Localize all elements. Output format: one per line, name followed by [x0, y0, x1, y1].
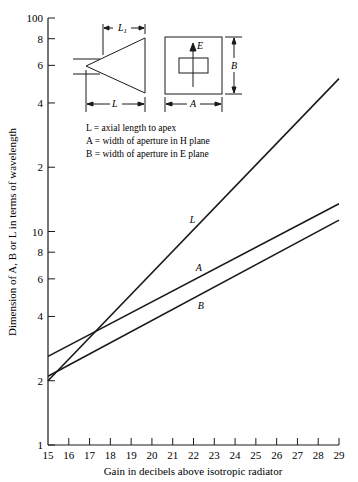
- y-tick-label: 6: [38, 273, 44, 285]
- legend-item-L: L = axial length to apex: [86, 123, 176, 133]
- label-B-dim: B: [231, 60, 237, 71]
- legend-item-A: A = width of aperture in H plane: [86, 136, 210, 146]
- series-label-A: A: [195, 262, 203, 273]
- x-tick-label: 18: [105, 449, 117, 461]
- y-tick-label: 4: [38, 97, 44, 109]
- y-ticks: 12468102468100: [27, 12, 56, 451]
- x-tick-label: 20: [146, 449, 158, 461]
- label-E: E: [196, 40, 203, 51]
- y-tick-label: 6: [38, 59, 44, 71]
- x-tick-label: 21: [167, 449, 178, 461]
- y-tick-label: 8: [38, 246, 44, 258]
- x-tick-label: 16: [63, 449, 75, 461]
- horn-gain-chart: 12468102468100 1516171819202122232425262…: [0, 0, 358, 482]
- series-line-B: [48, 220, 339, 376]
- x-axis-label: Gain in decibels above isotropic radiato…: [104, 465, 283, 477]
- y-axis-label: Dimension of A, B or L in terms of wavel…: [6, 128, 18, 336]
- label-L1: L1: [117, 22, 127, 35]
- series-label-B: B: [198, 300, 204, 311]
- y-tick-label: 2: [38, 161, 44, 173]
- y-tick-label: 2: [38, 375, 44, 387]
- label-L: L: [111, 98, 118, 109]
- x-tick-label: 22: [188, 449, 199, 461]
- x-tick-label: 27: [292, 449, 304, 461]
- x-tick-label: 26: [271, 449, 283, 461]
- x-tick-label: 29: [334, 449, 346, 461]
- horn-front-view-diagram: [165, 37, 242, 112]
- label-A-dim: A: [189, 98, 197, 109]
- y-tick-label: 4: [38, 310, 44, 322]
- x-tick-label: 25: [250, 449, 262, 461]
- series-label-L: L: [189, 214, 196, 225]
- y-tick-label: 8: [38, 33, 44, 45]
- x-tick-label: 23: [209, 449, 221, 461]
- x-ticks: 151617181920212223242526272829: [43, 438, 346, 461]
- x-tick-label: 19: [126, 449, 138, 461]
- x-tick-label: 15: [43, 449, 55, 461]
- horn-side-view-diagram: [73, 24, 145, 112]
- legend-item-B: B = width of aperture in E plane: [86, 149, 209, 159]
- series-line-A: [48, 204, 339, 357]
- x-tick-label: 17: [84, 449, 96, 461]
- y-tick-label: 10: [32, 226, 44, 238]
- x-tick-label: 28: [313, 449, 325, 461]
- legend: L = axial length to apex A = width of ap…: [86, 123, 210, 159]
- y-tick-label: 100: [27, 12, 44, 24]
- x-tick-label: 24: [230, 449, 242, 461]
